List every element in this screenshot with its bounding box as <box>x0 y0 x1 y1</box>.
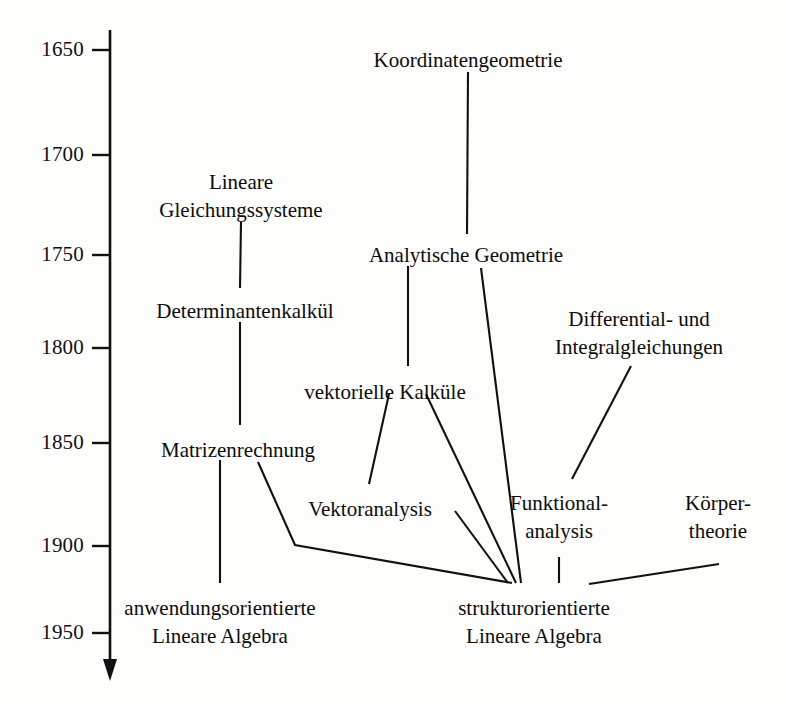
edge-gleichungssysteme-determinanten <box>240 222 241 288</box>
node-lineare-gleichungssysteme: LineareGleichungssysteme <box>159 168 322 224</box>
node-label-line: analysis <box>510 517 608 545</box>
node-label-line: anwendungsorientierte <box>124 594 315 622</box>
edge-koerpertheorie-struktur <box>589 564 719 584</box>
node-label-line: theorie <box>685 517 751 545</box>
year-axis <box>92 30 117 681</box>
node-label-line: Lineare <box>159 168 322 196</box>
node-label-line: Analytische Geometrie <box>369 243 563 268</box>
node-label-line: Lineare Algebra <box>458 622 610 650</box>
node-vektorielle-kalkuele: vektorielle Kalküle <box>304 380 466 405</box>
node-label-line: Differential- und <box>555 305 723 333</box>
node-koerpertheorie: Körper-theorie <box>685 489 751 545</box>
axis-tick-label-1650: 1650 <box>0 39 84 60</box>
node-label-line: Determinantenkalkül <box>156 299 333 324</box>
node-label-line: Matrizenrechnung <box>161 438 315 463</box>
node-label-line: strukturorientierte <box>458 594 610 622</box>
node-label-line: Vektoranalysis <box>308 497 432 522</box>
axis-tick-label-1750: 1750 <box>0 244 84 265</box>
node-koordinatengeometrie: Koordinatengeometrie <box>374 48 563 73</box>
node-label-line: Körper- <box>685 489 751 517</box>
node-funktionalanalysis: Funktional-analysis <box>510 489 608 545</box>
node-label-line: vektorielle Kalküle <box>304 380 466 405</box>
axis-tick-label-1850: 1850 <box>0 432 84 453</box>
node-strukturorientierte-lineare-algebra: strukturorientierteLineare Algebra <box>458 594 610 650</box>
node-label-line: Gleichungssysteme <box>159 196 322 224</box>
node-matrizenrechnung: Matrizenrechnung <box>161 438 315 463</box>
axis-tick-label-1950: 1950 <box>0 622 84 643</box>
diagram-canvas: 1650170017501800185019001950 Koordinaten… <box>0 0 786 704</box>
node-anwendungsorientierte-lineare-algebra: anwendungsorientierteLineare Algebra <box>124 594 315 650</box>
node-label-line: Koordinatengeometrie <box>374 48 563 73</box>
node-analytische-geometrie: Analytische Geometrie <box>369 243 563 268</box>
edge-vektorielle-struktur <box>426 394 516 583</box>
edge-differential-funktional <box>572 366 631 479</box>
node-label-line: Lineare Algebra <box>124 622 315 650</box>
edge-koordinatengeometrie-analytische <box>467 72 468 234</box>
axis-tick-label-1900: 1900 <box>0 535 84 556</box>
node-label-line: Funktional- <box>510 489 608 517</box>
edge-vektorielle-vektoranalysis <box>369 394 389 484</box>
node-determinantenkalkuel: Determinantenkalkül <box>156 299 333 324</box>
edge-matrizen-struktur <box>258 462 512 583</box>
axis-arrowhead-icon <box>103 659 117 681</box>
figure-caption <box>0 698 786 704</box>
node-label-line: Integralgleichungen <box>555 333 723 361</box>
edge-vektoranalysis-struktur <box>455 511 508 583</box>
node-vektoranalysis: Vektoranalysis <box>308 497 432 522</box>
axis-tick-label-1700: 1700 <box>0 144 84 165</box>
node-differential-und-integralgleichungen: Differential- undIntegralgleichungen <box>555 305 723 361</box>
axis-tick-label-1800: 1800 <box>0 337 84 358</box>
